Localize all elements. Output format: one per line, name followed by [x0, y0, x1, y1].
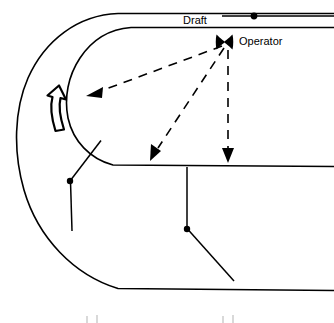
bottom-artifact-left	[86, 315, 98, 323]
inner-wall-path	[67, 28, 334, 167]
draft-label: Draft	[183, 14, 207, 26]
curved-up-arrow-icon	[48, 86, 67, 132]
flow-arrow-down-head	[222, 148, 234, 163]
schematic-drawing: Draft Operator	[0, 0, 334, 323]
left-probe-stem	[71, 181, 73, 231]
x-bowtie-icon	[216, 35, 234, 50]
bottom-artifact-right	[222, 315, 234, 323]
dot-marker-icon	[251, 13, 258, 20]
right-probe-joint-dot	[184, 226, 190, 232]
left-probe-path	[70, 141, 101, 182]
left-probe-joint-dot	[67, 178, 73, 184]
flow-arrow-left-shaft	[98, 46, 222, 92]
outer-wall-path	[17, 14, 334, 291]
flow-arrow-left-head	[86, 87, 103, 98]
flow-arrow-downleft-shaft	[158, 48, 224, 148]
right-probe-arm	[188, 229, 235, 281]
diagram-canvas: Draft Operator	[0, 0, 334, 323]
operator-label: Operator	[239, 35, 283, 47]
